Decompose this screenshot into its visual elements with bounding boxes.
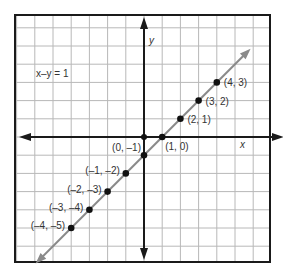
data-point: [104, 188, 111, 195]
data-point: [141, 152, 148, 159]
point-label: (1, 0): [165, 141, 188, 152]
point-label: (2, 1): [187, 114, 210, 125]
point-label: (0, –1): [112, 142, 141, 153]
origin-point: [141, 134, 147, 140]
data-point: [159, 134, 166, 141]
x-axis-arrow-right-icon: [272, 133, 283, 141]
y-axis-arrow-up-icon: [140, 17, 148, 29]
point-label: (–3, –4): [49, 202, 83, 213]
data-point: [123, 170, 130, 177]
data-point: [214, 79, 221, 86]
x-axis-arrow-left-icon: [19, 133, 31, 141]
data-point: [86, 207, 93, 214]
data-point: [177, 116, 184, 123]
data-point: [195, 97, 202, 104]
point-label: (4, 3): [224, 77, 247, 88]
y-axis-arrow-down-icon: [140, 248, 148, 260]
point-label: (3, 2): [206, 96, 229, 107]
data-point: [68, 225, 75, 232]
point-label: (–2, –3): [67, 184, 101, 195]
equation-label: x–y = 1: [36, 68, 69, 79]
x-axis-label: x: [239, 139, 246, 150]
point-label: (–1, –2): [85, 165, 119, 176]
coordinate-plane-chart: (–4, –5)(–3, –4)(–2, –3)(–1, –2)(0, –1)(…: [0, 0, 283, 273]
y-axis-label: y: [148, 35, 155, 46]
point-label: (–4, –5): [31, 220, 65, 231]
